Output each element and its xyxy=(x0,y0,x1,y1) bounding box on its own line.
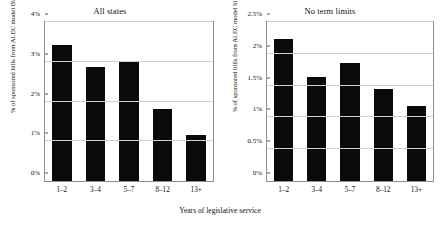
y-tick-label-right-5: 2.5% xyxy=(247,10,267,18)
bar-slot xyxy=(333,22,366,181)
bar-slot xyxy=(300,22,333,181)
y-tick-mark-right-2 xyxy=(267,109,270,110)
bar-left-3–4 xyxy=(86,67,105,181)
y-tick-mark-left-2 xyxy=(45,93,48,94)
bar-group-left xyxy=(45,22,213,181)
y-tick-label-left-0: 0% xyxy=(31,169,45,177)
gridline-left-3 xyxy=(45,61,213,62)
bar-left-1–2 xyxy=(52,45,71,181)
x-tick-row-left: 1–23–45–78–1213+ xyxy=(45,181,213,199)
y-axis-label-left: % of sponsored bills from ALEC model Bil… xyxy=(9,0,16,129)
bar-left-13+ xyxy=(186,135,205,181)
y-tick-label-left-2: 2% xyxy=(31,90,45,98)
gridline-right-4 xyxy=(267,53,433,54)
bar-left-8–12 xyxy=(153,109,172,181)
x-tick-label-right-2: 5–7 xyxy=(333,181,366,199)
y-tick-label-left-3: 3% xyxy=(31,50,45,58)
x-tick-label-right-1: 3–4 xyxy=(300,181,333,199)
bar-slot xyxy=(400,22,433,181)
bar-group-right xyxy=(267,22,433,181)
gridline-right-2 xyxy=(267,116,433,117)
gridline-left-2 xyxy=(45,101,213,102)
bar-right-1–2 xyxy=(274,39,293,181)
y-tick-mark-left-3 xyxy=(45,53,48,54)
gridline-right-5 xyxy=(267,21,433,22)
x-tick-label-left-1: 3–4 xyxy=(79,181,113,199)
gridline-right-3 xyxy=(267,85,433,86)
gridline-right-1 xyxy=(267,148,433,149)
bar-right-3–4 xyxy=(307,77,326,181)
plot-area-left: 1–23–45–78–1213+ 0%1%2%3%4% xyxy=(44,21,214,182)
y-tick-mark-left-0 xyxy=(45,173,48,174)
y-tick-mark-right-4 xyxy=(267,45,270,46)
bar-left-5–7 xyxy=(119,62,138,181)
bar-slot xyxy=(146,22,180,181)
x-tick-row-right: 1–23–45–78–1213+ xyxy=(267,181,433,199)
plot-area-right: 1–23–45–78–1213+ 0%0.5%1%1.5%2%2.5% xyxy=(266,21,434,182)
x-tick-label-right-4: 13+ xyxy=(400,181,433,199)
bar-slot xyxy=(79,22,113,181)
x-tick-label-left-3: 8–12 xyxy=(146,181,180,199)
x-tick-label-left-0: 1–2 xyxy=(45,181,79,199)
bar-slot xyxy=(45,22,79,181)
y-axis-label-right: % of sponsored bills from ALEC model bil… xyxy=(231,0,238,129)
bar-slot xyxy=(367,22,400,181)
x-axis-caption: Years of legislative service xyxy=(0,206,440,215)
y-tick-mark-right-3 xyxy=(267,77,270,78)
y-tick-mark-left-1 xyxy=(45,133,48,134)
y-tick-label-right-2: 1% xyxy=(253,105,267,113)
y-tick-mark-left-4 xyxy=(45,14,48,15)
figure-two-panel-bar-chart: All states % of sponsored bills from ALE… xyxy=(0,0,440,227)
x-tick-label-right-0: 1–2 xyxy=(267,181,300,199)
y-tick-mark-right-1 xyxy=(267,141,270,142)
bar-right-5–7 xyxy=(340,63,359,181)
bar-slot xyxy=(267,22,300,181)
bar-slot xyxy=(179,22,213,181)
panel-all-states: All states % of sponsored bills from ALE… xyxy=(0,0,220,205)
y-tick-label-right-1: 0.5% xyxy=(247,137,267,145)
x-tick-label-left-4: 13+ xyxy=(179,181,213,199)
gridline-left-1 xyxy=(45,140,213,141)
x-tick-label-left-2: 5–7 xyxy=(112,181,146,199)
y-tick-label-right-4: 2% xyxy=(253,42,267,50)
x-tick-label-right-3: 8–12 xyxy=(367,181,400,199)
y-tick-mark-right-0 xyxy=(267,173,270,174)
bar-slot xyxy=(112,22,146,181)
panel-no-term-limits: No term limits % of sponsored bills from… xyxy=(220,0,440,205)
y-tick-label-left-4: 4% xyxy=(31,10,45,18)
gridline-left-4 xyxy=(45,21,213,22)
y-tick-label-left-1: 1% xyxy=(31,129,45,137)
y-tick-label-right-3: 1.5% xyxy=(247,74,267,82)
y-tick-mark-right-5 xyxy=(267,14,270,15)
bar-right-8–12 xyxy=(374,89,393,181)
y-tick-label-right-0: 0% xyxy=(253,169,267,177)
